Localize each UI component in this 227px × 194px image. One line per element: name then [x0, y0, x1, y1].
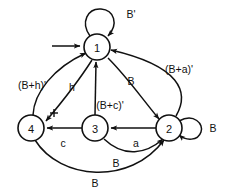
state-label-1: 1 [94, 42, 100, 54]
edge-label-1-to-4: h [69, 81, 75, 93]
transition-1-to-1-self-loop [86, 9, 115, 36]
transition-4-to-2-arc [35, 140, 164, 172]
edge-label-3-to-2: B [112, 157, 119, 169]
edge-label-2-to-1: (B+a)' [165, 63, 193, 75]
edge-label-4-to-2: B [91, 177, 98, 189]
state-node-3[interactable]: 3 [82, 115, 108, 141]
fsm-diagram: 1 2 3 4 B' B B (B+a)' (B+c)' (B+h)' h c … [0, 0, 227, 194]
state-label-4: 4 [28, 123, 34, 135]
edge-label-1-to-2: B [127, 75, 134, 87]
edge-label-2-to-2: B [209, 122, 216, 134]
state-node-1[interactable]: 1 [84, 34, 110, 60]
edge-label-4-to-1: (B+h)' [18, 79, 46, 91]
state-node-4[interactable]: 4 [18, 115, 44, 141]
state-diagram-canvas: 1 2 3 4 B' B B (B+a)' (B+c)' (B+h)' h c … [0, 0, 227, 194]
edge-label-3-to-1: (B+c)' [96, 99, 123, 111]
state-label-2: 2 [166, 123, 172, 135]
state-label-3: 3 [92, 123, 98, 135]
edge-label-2-to-3: a [133, 137, 139, 149]
edge-label-1-to-1: B' [126, 8, 135, 20]
edge-label-3-to-4: c [60, 137, 65, 149]
state-node-2[interactable]: 2 [156, 115, 182, 141]
